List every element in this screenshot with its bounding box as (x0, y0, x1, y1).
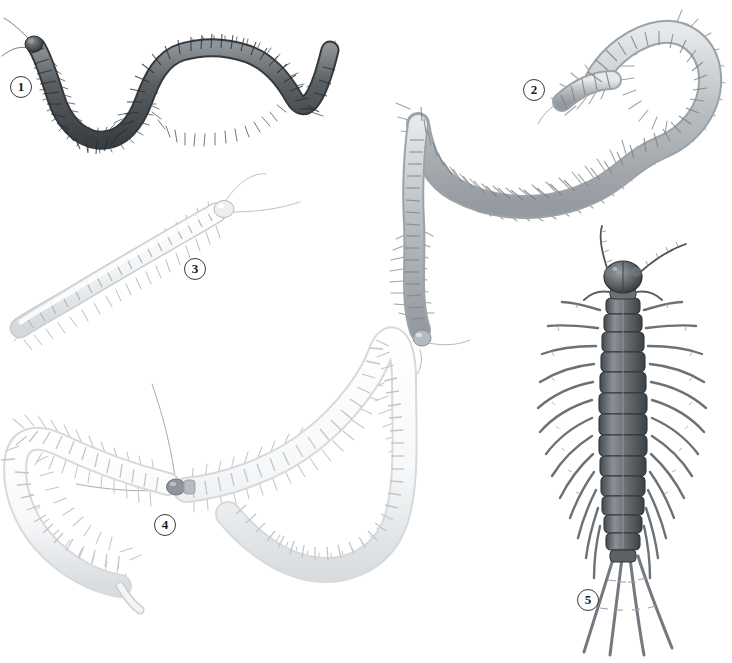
specimen-3-artwork (14, 174, 300, 350)
specimen-1-artwork (2, 18, 335, 154)
plate-artwork (0, 0, 732, 663)
specimen-2-artwork (390, 10, 725, 386)
figure-label-2: 2 (523, 79, 545, 101)
figure-label-4: 4 (154, 514, 176, 536)
specimen-4-artwork (1, 339, 405, 610)
figure-label-3: 3 (184, 258, 206, 280)
figure-label-5: 5 (577, 589, 599, 611)
illustration-plate: 1 2 3 4 5 (0, 0, 732, 663)
specimen-5-artwork (538, 226, 706, 655)
figure-label-1: 1 (10, 76, 32, 98)
